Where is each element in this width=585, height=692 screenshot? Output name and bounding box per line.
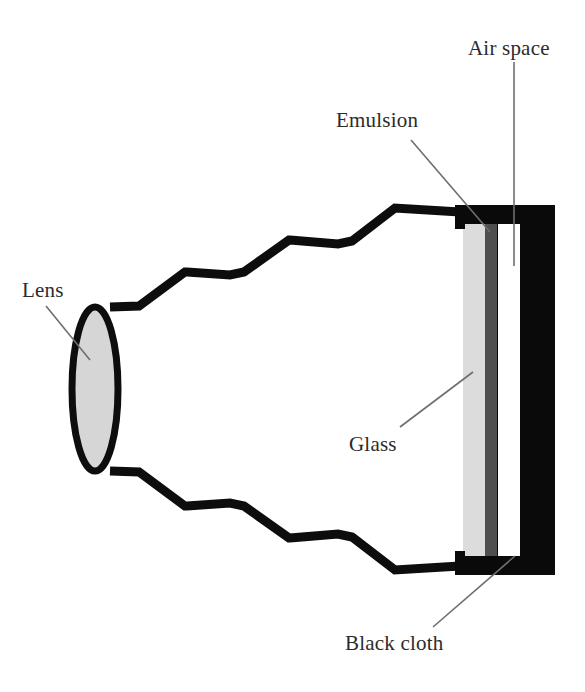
bellows-bottom-zigzag — [110, 471, 460, 570]
black-cloth-slab — [520, 205, 555, 575]
label-black-cloth: Black cloth — [345, 631, 443, 656]
camera-back-cross-section — [0, 0, 585, 692]
lens-ellipse — [72, 307, 118, 471]
label-glass: Glass — [349, 432, 397, 457]
emulsion-layer — [485, 207, 497, 573]
glass-plate — [463, 207, 485, 573]
diagram-canvas: Lens Emulsion Air space Glass Black clot… — [0, 0, 585, 692]
air-gap — [498, 224, 520, 556]
bellows-top-zigzag — [110, 208, 460, 307]
label-emulsion: Emulsion — [336, 108, 418, 133]
label-lens: Lens — [22, 278, 64, 303]
label-air-space: Air space — [468, 36, 550, 61]
leader-line-emulsion — [411, 140, 490, 232]
leader-line-glass — [400, 372, 473, 427]
camera-back-assembly — [455, 205, 555, 575]
